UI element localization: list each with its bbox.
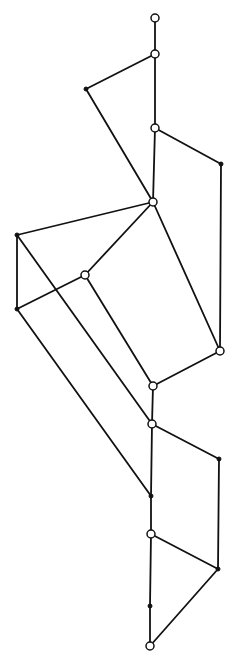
edge-n12-n14 xyxy=(151,424,152,496)
filled-node-icon xyxy=(217,457,221,461)
open-node-icon xyxy=(151,50,159,58)
edge-n9-n14 xyxy=(17,309,151,496)
edge-n10-n11 xyxy=(153,351,220,386)
open-node-icon xyxy=(151,124,159,132)
filled-node-icon xyxy=(15,233,19,237)
edge-n2-n3 xyxy=(86,54,155,89)
filled-node-icon xyxy=(148,604,152,608)
edge-n15-n17 xyxy=(150,534,151,606)
open-node-icon xyxy=(81,271,89,279)
open-node-icon xyxy=(149,198,157,206)
edge-n4-n5 xyxy=(155,128,221,164)
filled-node-icon xyxy=(15,307,19,311)
open-node-icon xyxy=(149,382,157,390)
open-node-icon xyxy=(216,347,224,355)
lattice-diagram xyxy=(0,0,228,668)
filled-node-icon xyxy=(216,567,220,571)
open-node-icon xyxy=(151,14,159,22)
open-node-icon xyxy=(146,642,154,650)
edge-n3-n6 xyxy=(86,89,153,202)
open-node-icon xyxy=(148,420,156,428)
edge-n6-n10 xyxy=(153,202,220,351)
edge-n11-n12 xyxy=(152,386,153,424)
edge-n13-n16 xyxy=(218,459,219,569)
edge-n8-n11 xyxy=(85,275,153,386)
filled-node-icon xyxy=(149,494,153,498)
open-node-icon xyxy=(147,530,155,538)
edge-n16-n18 xyxy=(150,569,218,646)
edge-n5-n10 xyxy=(220,164,221,351)
edge-n4-n6 xyxy=(153,128,155,202)
filled-node-icon xyxy=(84,87,88,91)
edge-n15-n16 xyxy=(151,534,218,569)
edge-n6-n8 xyxy=(85,202,153,275)
edge-n8-n9 xyxy=(17,275,85,309)
filled-node-icon xyxy=(219,162,223,166)
edge-n7-n12 xyxy=(17,235,152,424)
diagram-edges xyxy=(17,18,221,646)
edge-n6-n7 xyxy=(17,202,153,235)
edge-n12-n13 xyxy=(152,424,219,459)
